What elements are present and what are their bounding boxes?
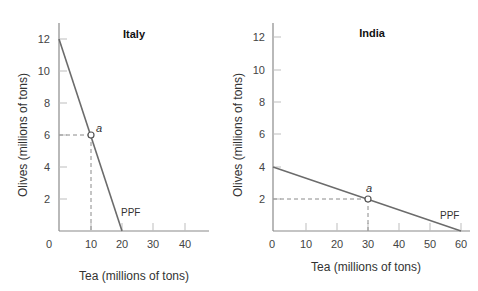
india-x-tick-label: 40: [393, 238, 405, 250]
india-y-tick-label: 4: [259, 161, 265, 173]
india-x-ticks: [306, 223, 461, 231]
italy-y-tick-label: 2: [44, 193, 50, 205]
italy-x-axis-title: Tea (millions of tons): [79, 269, 189, 283]
chart-canvas: 2 4 6 8 10 12 0 10 20 30 40 Italy Tea (m…: [0, 0, 478, 291]
india-x-tick-label: 30: [362, 238, 374, 250]
india-y-tick-label: 12: [253, 31, 265, 43]
india-panel: 2 4 6 8 10 12 0 10 20 30 40 50 60 India …: [231, 23, 470, 274]
india-x-tick-label: 60: [455, 238, 467, 250]
india-x-tick-label: 50: [424, 238, 436, 250]
italy-origin-label: 0: [46, 238, 52, 250]
italy-y-tick-label: 6: [44, 129, 50, 141]
india-y-tick-label: 10: [253, 64, 265, 76]
india-x-tick-label: 10: [300, 238, 312, 250]
india-title: India: [359, 27, 386, 39]
italy-y-tick-label: 4: [44, 161, 50, 173]
italy-x-tick-label: 30: [147, 238, 159, 250]
india-x-tick-label: 20: [331, 238, 343, 250]
italy-point-a: [88, 132, 94, 138]
india-y-tick-label: 6: [259, 128, 265, 140]
italy-ppf-label: PPF: [121, 207, 140, 218]
india-origin-label: 0: [269, 238, 275, 250]
india-point-a-label: a: [366, 182, 372, 194]
india-y-ticks: [273, 37, 281, 199]
italy-panel: 2 4 6 8 10 12 0 10 20 30 40 Italy Tea (m…: [16, 23, 209, 283]
india-ppf-label: PPF: [440, 210, 459, 221]
italy-y-tick-label: 12: [38, 33, 50, 45]
italy-x-ticks: [91, 223, 185, 231]
india-y-axis-title: Olives (millions of tons): [231, 73, 245, 197]
italy-y-axis-title: Olives (millions of tons): [16, 73, 30, 197]
italy-y-ticks: [59, 39, 67, 199]
italy-y-tick-label: 10: [38, 65, 50, 77]
india-y-tick-label: 8: [259, 96, 265, 108]
india-point-a: [365, 196, 371, 202]
italy-x-tick-label: 20: [116, 238, 128, 250]
india-y-tick-label: 2: [259, 193, 265, 205]
italy-y-tick-label: 8: [44, 97, 50, 109]
italy-point-a-label: a: [96, 122, 102, 134]
italy-x-tick-label: 40: [179, 238, 191, 250]
italy-title: Italy: [123, 28, 146, 40]
italy-x-tick-label: 10: [85, 238, 97, 250]
india-x-axis-title: Tea (millions of tons): [311, 260, 421, 274]
